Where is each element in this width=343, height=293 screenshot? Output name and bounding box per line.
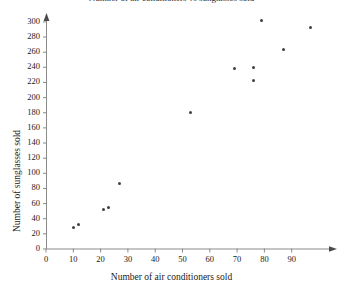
y-tick-label: 0 — [14, 243, 40, 253]
y-tick-label: 180 — [14, 107, 40, 117]
y-tick-label: 40 — [14, 213, 40, 223]
data-point — [252, 66, 255, 69]
y-tick-label: 220 — [14, 76, 40, 86]
x-tick-label: 40 — [141, 254, 169, 264]
x-tick-label: 0 — [32, 254, 60, 264]
y-tick-label: 260 — [14, 46, 40, 56]
x-axis-label: Number of air conditioners sold — [0, 272, 343, 282]
y-tick-label: 240 — [14, 61, 40, 71]
x-tick-label: 90 — [278, 254, 306, 264]
x-tick-label: 70 — [223, 254, 251, 264]
x-tick-label: 20 — [87, 254, 115, 264]
plot-axes — [0, 0, 343, 293]
x-tick-label: 30 — [114, 254, 142, 264]
x-tick-label: 10 — [59, 254, 87, 264]
y-tick-label: 120 — [14, 152, 40, 162]
data-point — [72, 226, 75, 229]
y-tick-label: 60 — [14, 198, 40, 208]
x-tick-label: 50 — [169, 254, 197, 264]
y-tick-label: 100 — [14, 167, 40, 177]
y-tick-label: 200 — [14, 92, 40, 102]
data-point — [77, 223, 80, 226]
y-tick-label: 160 — [14, 122, 40, 132]
y-tick-label: 20 — [14, 228, 40, 238]
data-point — [102, 208, 105, 211]
x-tick-label: 80 — [250, 254, 278, 264]
y-tick-label: 80 — [14, 182, 40, 192]
y-tick-label: 140 — [14, 137, 40, 147]
y-tick-label: 280 — [14, 31, 40, 41]
y-tick-label: 300 — [14, 16, 40, 26]
scatter-plot-figure: Number of air conditioners vs sunglasses… — [0, 0, 343, 293]
x-tick-label: 60 — [196, 254, 224, 264]
